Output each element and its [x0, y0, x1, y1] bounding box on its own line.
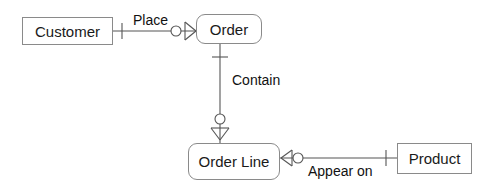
entity-order-line[interactable]: Order Line	[188, 143, 280, 180]
cardinality-zero-orderline	[215, 114, 225, 124]
cardinality-zero-order	[171, 26, 181, 36]
entity-order-line-label: Order Line	[199, 154, 270, 169]
relationship-label-place: Place	[133, 13, 168, 27]
er-diagram-canvas: Order ===== --> Order Line ===== -->	[0, 0, 494, 192]
cardinality-many-left-orderline	[211, 128, 220, 140]
cardinality-many-lower-orderline-2	[281, 158, 292, 166]
connector-contain	[211, 44, 229, 143]
cardinality-many-upper-orderline-2	[281, 150, 292, 158]
entity-product-label: Product	[409, 151, 461, 166]
entity-customer[interactable]: Customer	[22, 17, 113, 45]
entity-order-label: Order	[210, 22, 248, 37]
entity-order[interactable]: Order	[196, 14, 262, 44]
cardinality-many-lower-order	[185, 31, 196, 40]
entity-customer-label: Customer	[35, 24, 100, 39]
cardinality-many-right-orderline	[220, 128, 229, 140]
cardinality-zero-orderline-2	[293, 153, 303, 163]
relationship-label-appear-on: Appear on	[308, 164, 373, 178]
cardinality-many-upper-order	[185, 22, 196, 31]
relationship-label-contain: Contain	[232, 73, 280, 87]
entity-product[interactable]: Product	[397, 143, 472, 174]
